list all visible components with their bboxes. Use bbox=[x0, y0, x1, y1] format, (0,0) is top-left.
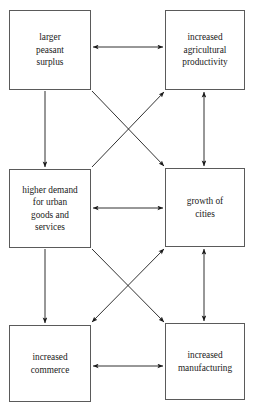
edge-arrow bbox=[92, 91, 164, 166]
node-label: increased manufacturing bbox=[175, 349, 235, 374]
node-label: larger peasant surplus bbox=[33, 31, 67, 68]
node-label: increased commerce bbox=[28, 351, 73, 376]
diagram-canvas: larger peasant surplus increased agricul… bbox=[0, 0, 253, 412]
node-label: growth of cities bbox=[184, 195, 226, 220]
edge-arrow bbox=[92, 92, 164, 167]
node-agricultural-productivity[interactable]: increased agricultural productivity bbox=[165, 10, 245, 90]
node-label: higher demand for urban goods and servic… bbox=[19, 184, 81, 234]
node-peasant-surplus[interactable]: larger peasant surplus bbox=[9, 10, 91, 90]
node-increased-manufacturing[interactable]: increased manufacturing bbox=[165, 323, 245, 400]
node-label: increased agricultural productivity bbox=[179, 31, 230, 68]
node-urban-demand[interactable]: higher demand for urban goods and servic… bbox=[9, 169, 91, 248]
node-growth-of-cities[interactable]: growth of cities bbox=[165, 168, 245, 247]
node-increased-commerce[interactable]: increased commerce bbox=[9, 325, 91, 402]
